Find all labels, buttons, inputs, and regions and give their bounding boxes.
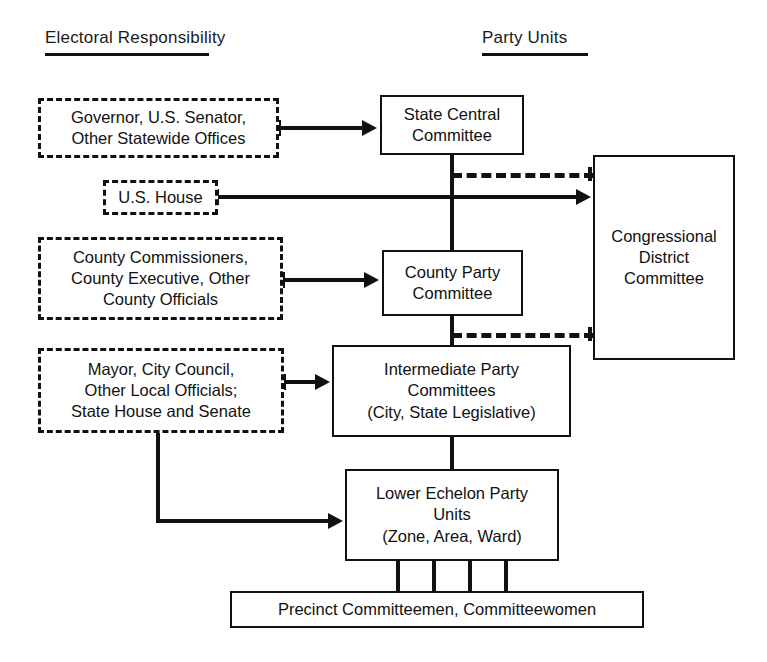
arrowhead-statewide-to-state-central: [362, 120, 377, 136]
connector-intermediate-to-lower-echelon: [450, 434, 454, 472]
node-statewide-offices-label: Governor, U.S. Senator,Other Statewide O…: [65, 107, 252, 149]
arrowhead-county-officials-to-county-party: [364, 272, 379, 288]
connector-local-officials-to-intermediate: [284, 380, 316, 384]
node-county-party-committee-label: County PartyCommittee: [399, 262, 506, 304]
node-us-house-label: U.S. House: [112, 187, 208, 208]
column-header-electoral-responsibility: Electoral Responsibility: [45, 28, 226, 56]
node-us-house[interactable]: U.S. House: [103, 180, 218, 215]
connector-local-officials-to-lower-echelon-vertical: [156, 428, 160, 523]
node-lower-echelon-party-units-label: Lower Echelon PartyUnits(Zone, Area, War…: [370, 483, 534, 546]
node-statewide-offices[interactable]: Governor, U.S. Senator,Other Statewide O…: [38, 98, 279, 158]
node-local-officials[interactable]: Mayor, City Council,Other Local Official…: [38, 348, 284, 433]
node-congressional-district-committee-label: CongressionalDistrictCommittee: [605, 226, 722, 289]
connector-lower-echelon-to-precinct-1: [396, 558, 400, 593]
connector-local-officials-to-lower-echelon-horizontal: [156, 519, 330, 523]
column-header-party-units: Party Units: [482, 28, 588, 56]
connector-lower-echelon-to-precinct-3: [468, 558, 472, 593]
arrowhead-local-officials-to-lower-echelon: [328, 513, 343, 529]
connector-state-central-to-county-party: [450, 153, 454, 253]
connector-statewide-to-state-central: [279, 126, 363, 130]
node-intermediate-party-committees-label: Intermediate PartyCommittees(City, State…: [361, 359, 541, 422]
arrowhead-us-house-to-congressional: [576, 189, 591, 205]
node-county-officials-label: County Commissioners,County Executive, O…: [65, 247, 256, 310]
node-intermediate-party-committees[interactable]: Intermediate PartyCommittees(City, State…: [332, 345, 571, 437]
column-header-electoral-responsibility-label: Electoral Responsibility: [45, 28, 226, 47]
organization-diagram: Electoral Responsibility Party Units Gov…: [0, 0, 767, 662]
header-underline-right: [482, 53, 588, 56]
column-header-party-units-label: Party Units: [482, 28, 567, 47]
header-underline-left: [45, 53, 209, 56]
connector-dashed-state-central-to-congressional: [452, 173, 594, 178]
node-county-party-committee[interactable]: County PartyCommittee: [382, 250, 523, 316]
connector-cap-dashed-county-party: [588, 327, 592, 341]
node-congressional-district-committee[interactable]: CongressionalDistrictCommittee: [593, 155, 735, 360]
arrowhead-local-officials-to-intermediate: [315, 374, 330, 390]
connector-us-house-to-congressional: [217, 195, 578, 199]
node-precinct-committee-members-label: Precinct Committeemen, Committeewomen: [272, 599, 602, 620]
node-precinct-committee-members[interactable]: Precinct Committeemen, Committeewomen: [230, 591, 644, 628]
connector-county-party-to-intermediate: [450, 314, 454, 348]
connector-cap-dashed-state-central: [588, 167, 592, 181]
node-local-officials-label: Mayor, City Council,Other Local Official…: [65, 359, 257, 422]
connector-dashed-county-party-to-congressional: [452, 333, 594, 338]
node-state-central-committee-label: State CentralCommittee: [398, 104, 506, 146]
connector-county-officials-to-county-party: [283, 278, 365, 282]
connector-lower-echelon-to-precinct-4: [504, 558, 508, 593]
node-state-central-committee[interactable]: State CentralCommittee: [380, 95, 524, 155]
connector-lower-echelon-to-precinct-2: [432, 558, 436, 593]
node-lower-echelon-party-units[interactable]: Lower Echelon PartyUnits(Zone, Area, War…: [345, 469, 559, 561]
node-county-officials[interactable]: County Commissioners,County Executive, O…: [38, 237, 283, 320]
